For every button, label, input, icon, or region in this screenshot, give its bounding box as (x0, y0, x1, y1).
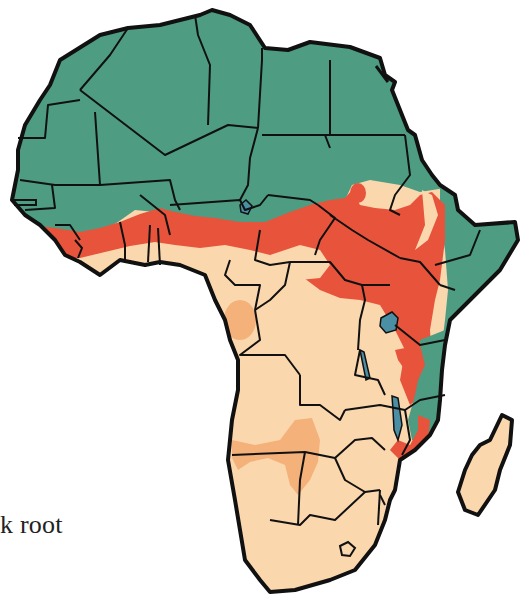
madagascar (458, 415, 512, 515)
africa-map (0, 0, 527, 605)
map-fills (0, 0, 527, 605)
red-zone-blob (350, 183, 366, 203)
caption-text: k root (0, 510, 63, 540)
